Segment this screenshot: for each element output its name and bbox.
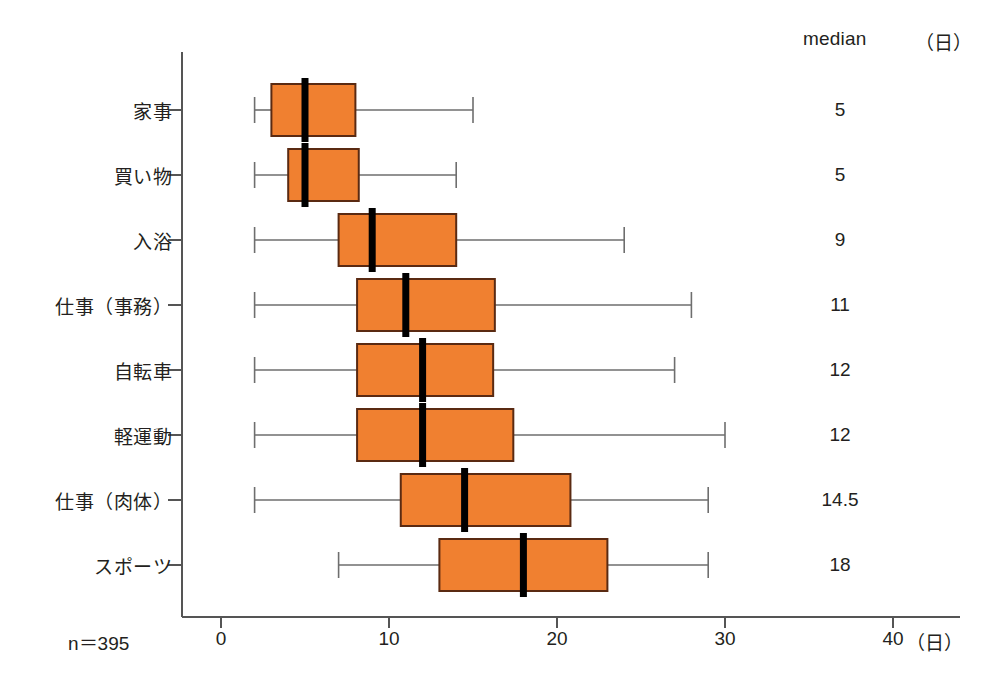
box-rect <box>288 149 359 201</box>
box-rect <box>357 279 495 331</box>
box-plot-row <box>255 338 675 402</box>
box-plot-row <box>255 273 692 337</box>
sample-size-label: n＝395 <box>68 628 129 655</box>
median-column-header: median <box>803 28 867 50</box>
category-axis-labels: 家事買い物入浴仕事（事務）自転車軽運動仕事（肉体）スポーツ <box>12 0 172 689</box>
x-axis-unit-label: （日） <box>906 628 963 655</box>
x-tick-label: 0 <box>216 628 227 650</box>
box-plot-row <box>255 78 473 142</box>
category-label: 仕事（事務） <box>22 292 172 319</box>
category-label: 軽運動 <box>22 422 172 449</box>
category-label: 仕事（肉体） <box>22 487 172 514</box>
x-tick-label: 40 <box>882 628 903 650</box>
x-tick-label: 30 <box>714 628 735 650</box>
median-value: 11 <box>800 294 880 316</box>
box-plot-chart: median （日） 家事買い物入浴仕事（事務）自転車軽運動仕事（肉体）スポーツ… <box>0 0 995 689</box>
median-value: 5 <box>800 164 880 186</box>
median-value: 18 <box>800 554 880 576</box>
median-value: 9 <box>800 229 880 251</box>
box-plot-row <box>339 533 709 597</box>
box-rect <box>339 214 457 266</box>
category-label: 自転車 <box>22 357 172 384</box>
median-value: 12 <box>800 424 880 446</box>
median-value: 12 <box>800 359 880 381</box>
category-label: スポーツ <box>22 552 172 579</box>
box-rect <box>401 474 571 526</box>
x-tick-label: 20 <box>546 628 567 650</box>
box-series <box>255 78 725 597</box>
category-label: 入浴 <box>22 227 172 254</box>
median-value: 14.5 <box>800 489 880 511</box>
box-plot-row <box>255 468 709 532</box>
category-label: 買い物 <box>22 162 172 189</box>
x-tick-label: 10 <box>378 628 399 650</box>
median-value: 5 <box>800 99 880 121</box>
box-rect <box>357 409 513 461</box>
box-rect <box>271 84 355 136</box>
box-plot-row <box>255 403 725 467</box>
box-plot-row <box>255 143 457 207</box>
box-plot-row <box>255 208 625 272</box>
unit-column-header: （日） <box>915 28 973 55</box>
category-label: 家事 <box>22 97 172 124</box>
